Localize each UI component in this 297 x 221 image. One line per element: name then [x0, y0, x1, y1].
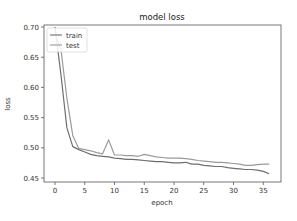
loss-chart: model loss 0.450.500.550.600.650.70 0510… — [0, 0, 297, 221]
x-tick-label: 35 — [259, 187, 268, 195]
legend-test-label: test — [66, 42, 80, 50]
x-tick-label: 15 — [140, 187, 149, 195]
x-tick-label: 25 — [199, 187, 208, 195]
x-tick-label: 20 — [170, 187, 179, 195]
y-tick-label: 0.50 — [23, 144, 39, 152]
x-tick-label: 0 — [53, 187, 57, 195]
test-line — [55, 33, 269, 165]
legend: train test — [47, 28, 87, 52]
x-axis: 05101520253035 — [53, 182, 268, 195]
chart-title: model loss — [139, 12, 185, 22]
y-tick-label: 0.65 — [23, 54, 39, 62]
x-axis-label: epoch — [151, 199, 172, 207]
y-axis: 0.450.500.550.600.650.70 — [23, 24, 44, 183]
x-tick-label: 5 — [83, 187, 87, 195]
y-tick-label: 0.55 — [23, 114, 39, 122]
y-axis-label: loss — [4, 97, 12, 111]
y-tick-label: 0.60 — [23, 84, 39, 92]
legend-train-label: train — [66, 32, 82, 40]
x-tick-label: 10 — [110, 187, 119, 195]
y-tick-label: 0.70 — [23, 24, 39, 32]
y-tick-label: 0.45 — [23, 175, 39, 183]
x-tick-label: 30 — [229, 187, 238, 195]
